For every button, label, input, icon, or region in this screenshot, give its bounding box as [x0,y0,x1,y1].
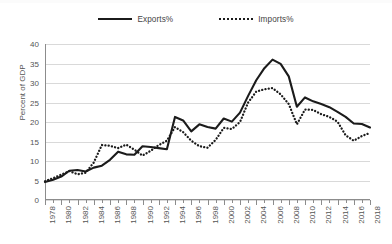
x-tick-1986 [110,200,111,205]
x-tick-label-1996: 1996 [194,206,203,224]
series-container [45,44,370,200]
legend-item-exports[interactable]: Exports% [98,15,173,24]
x-tick-label-1988: 1988 [129,206,138,224]
chart-legend: Exports% Imports% [0,10,392,28]
y-tick-label-20: 20 [30,118,39,127]
x-tick-label-1992: 1992 [162,206,171,224]
trade-share-line-chart: Exports% Imports% Percent of GDP 0510152… [0,0,392,244]
x-tick-2003 [248,200,249,203]
x-tick-label-1984: 1984 [97,206,106,224]
x-tick-label-2004: 2004 [259,206,268,224]
solid-line-key-icon [98,18,132,20]
y-tick-label-15: 15 [30,137,39,146]
x-tick-label-1982: 1982 [81,206,90,224]
x-tick-2007 [281,200,282,203]
x-tick-2001 [232,200,233,203]
x-tick-1989 [134,200,135,203]
x-tick-2015 [346,200,347,203]
x-tick-1984 [94,200,95,205]
x-tick-label-1978: 1978 [48,206,57,224]
x-tick-1998 [208,200,209,205]
x-tick-1979 [53,200,54,203]
y-tick-label-0: 0 [35,196,39,205]
x-tick-label-2014: 2014 [341,206,350,224]
x-tick-1996 [191,200,192,205]
x-tick-label-1980: 1980 [64,206,73,224]
y-tick-label-30: 30 [30,79,39,88]
x-tick-2018 [370,200,371,205]
x-tick-1999 [216,200,217,203]
x-tick-1992 [159,200,160,205]
x-axis-tick-labels: 1978198019821984198619881990199219941996… [45,206,370,244]
x-tick-1981 [69,200,70,203]
x-tick-2016 [354,200,355,205]
x-tick-1990 [143,200,144,205]
y-tick-label-25: 25 [30,98,39,107]
x-tick-2005 [264,200,265,203]
y-tick-label-40: 40 [30,40,39,49]
x-tick-1994 [175,200,176,205]
x-tick-1997 [199,200,200,203]
x-tick-1987 [118,200,119,203]
x-tick-1978 [45,200,46,205]
x-tick-label-2008: 2008 [292,206,301,224]
x-tick-2012 [321,200,322,205]
x-tick-2011 [313,200,314,203]
x-tick-label-2006: 2006 [276,206,285,224]
x-tick-label-2018: 2018 [373,206,382,224]
x-tick-1991 [151,200,152,203]
x-tick-label-1986: 1986 [113,206,122,224]
top-edge-sliver [0,0,392,3]
plot-area [45,44,370,200]
x-tick-1985 [102,200,103,203]
x-tick-2009 [297,200,298,203]
y-tick-label-10: 10 [30,157,39,166]
x-tick-2004 [256,200,257,205]
x-tick-label-2016: 2016 [357,206,366,224]
x-tick-1995 [183,200,184,203]
x-tick-label-1994: 1994 [178,206,187,224]
x-tick-label-2010: 2010 [308,206,317,224]
x-tick-2000 [224,200,225,205]
x-tick-label-2002: 2002 [243,206,252,224]
y-tick-label-5: 5 [35,176,39,185]
x-tick-label-1990: 1990 [146,206,155,224]
x-tick-2010 [305,200,306,205]
legend-label-imports: Imports% [258,15,293,24]
legend-item-imports[interactable]: Imports% [219,15,293,24]
y-tick-label-35: 35 [30,59,39,68]
x-tick-label-2012: 2012 [324,206,333,224]
x-tick-label-1998: 1998 [211,206,220,224]
x-tick-2002 [240,200,241,205]
x-tick-1993 [167,200,168,203]
dotted-line-key-icon [219,18,253,20]
x-tick-2017 [362,200,363,203]
x-tick-label-2000: 2000 [227,206,236,224]
x-tick-2006 [273,200,274,205]
x-tick-1988 [126,200,127,205]
x-tick-2014 [338,200,339,205]
y-axis-tick-labels: 0510152025303540 [0,44,45,200]
x-tick-2008 [289,200,290,205]
legend-label-exports: Exports% [137,15,173,24]
x-tick-2013 [329,200,330,203]
x-tick-1983 [86,200,87,203]
x-tick-1982 [78,200,79,205]
x-tick-1980 [61,200,62,205]
